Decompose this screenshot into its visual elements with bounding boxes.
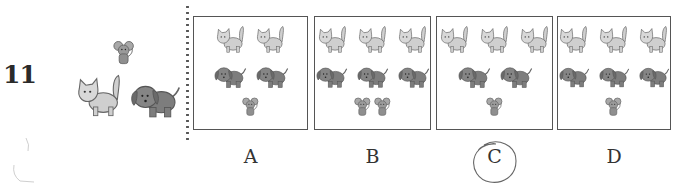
mouse-icon	[374, 96, 392, 118]
dog-row	[194, 63, 307, 89]
cat-icon	[638, 25, 670, 53]
mouse-icon	[113, 40, 136, 66]
cat-row	[194, 25, 307, 53]
dog-row	[558, 63, 670, 89]
option-label-a[interactable]: A	[236, 145, 266, 167]
mouse-icon	[242, 96, 260, 118]
dog-row	[315, 63, 430, 89]
cat-icon	[317, 25, 349, 53]
mouse-icon	[605, 96, 623, 118]
dog-icon	[255, 63, 289, 89]
dog-icon	[598, 63, 630, 89]
dog-icon	[397, 63, 430, 89]
question-number: 11	[3, 60, 36, 89]
cat-icon	[397, 25, 429, 53]
cat-row	[315, 25, 430, 53]
mouse-icon	[486, 96, 504, 118]
dog-icon	[356, 63, 389, 89]
dog-icon	[457, 63, 491, 89]
dog-icon	[128, 79, 182, 119]
mouse-row	[558, 96, 670, 118]
dog-icon	[638, 63, 670, 89]
cat-icon	[255, 25, 287, 53]
answer-circle-mark	[470, 139, 520, 185]
cat-row	[558, 25, 670, 53]
mouse-row	[315, 96, 430, 118]
option-label-b[interactable]: B	[358, 145, 388, 167]
cat-icon	[75, 73, 125, 117]
option-box-a[interactable]	[193, 16, 308, 130]
dog-icon	[315, 63, 348, 89]
pencil-mark	[8, 135, 38, 185]
cat-icon	[519, 25, 551, 53]
mouse-icon	[354, 96, 372, 118]
dog-icon	[499, 63, 533, 89]
cat-icon	[479, 25, 511, 53]
reference-animals	[70, 35, 185, 120]
option-box-d[interactable]	[557, 16, 671, 130]
cat-icon	[439, 25, 471, 53]
mouse-row	[194, 96, 307, 118]
cat-icon	[215, 25, 247, 53]
cat-icon	[357, 25, 389, 53]
dotted-divider	[186, 4, 189, 144]
option-box-b[interactable]	[314, 16, 431, 130]
dog-row	[437, 63, 552, 89]
cat-row	[437, 25, 552, 53]
dog-icon	[558, 63, 590, 89]
cat-icon	[598, 25, 630, 53]
option-label-d[interactable]: D	[599, 145, 629, 167]
cat-icon	[558, 25, 590, 53]
dog-icon	[213, 63, 247, 89]
mouse-row	[437, 96, 552, 118]
option-box-c[interactable]	[436, 16, 553, 130]
